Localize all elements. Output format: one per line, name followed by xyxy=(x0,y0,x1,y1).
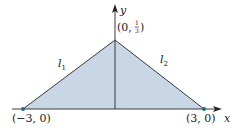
right-vertex-point xyxy=(202,107,206,111)
l1-label-sub: 1 xyxy=(62,64,66,72)
apex-label-suffix: ) xyxy=(140,21,144,34)
l2-label: l2 xyxy=(160,53,168,68)
apex-frac-num: 1 xyxy=(135,19,139,26)
apex-frac-den: 3 xyxy=(135,27,139,34)
l1-label: l1 xyxy=(58,57,66,72)
right-vertex-label: (3, 0) xyxy=(186,112,216,125)
shaded-region xyxy=(23,40,204,109)
y-axis-label: y xyxy=(119,4,127,17)
left-vertex-label: (−3, 0) xyxy=(12,112,51,125)
l2-label-sub: 2 xyxy=(164,60,168,68)
apex-label-prefix: (0, xyxy=(117,21,132,34)
x-axis-label: x xyxy=(224,112,231,125)
triangle-diagram: y x (0, 1 3 ) (−3, 0) (3, 0) l1 l2 xyxy=(0,0,233,130)
left-vertex-point xyxy=(21,107,25,111)
